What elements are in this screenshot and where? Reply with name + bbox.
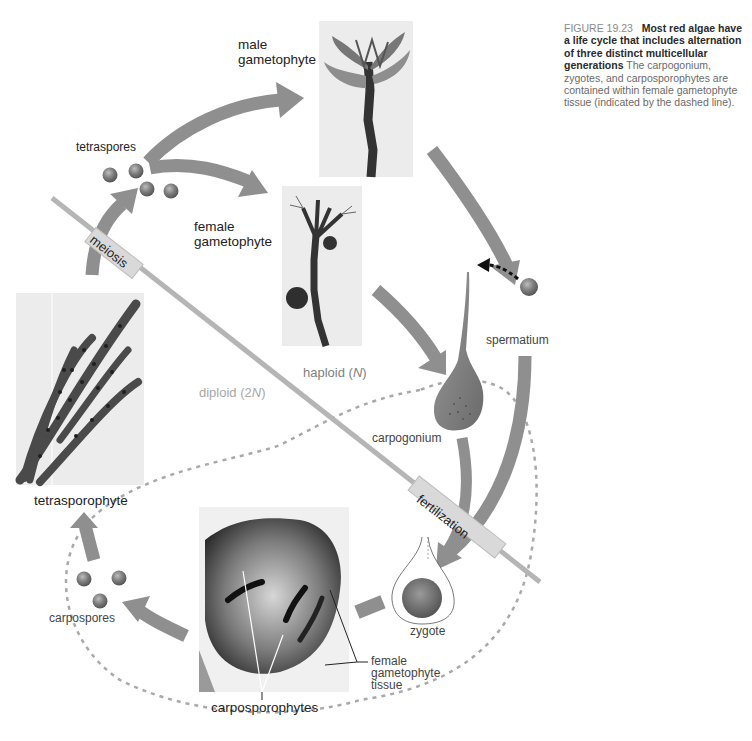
red-algae-life-cycle-diagram: male gametophyte female gametophyte tetr… <box>0 0 752 741</box>
spermatium-label: spermatium <box>486 334 549 347</box>
female-gametophyte-label: female gametophyte <box>194 219 272 249</box>
spermatium-icon <box>520 278 538 296</box>
male-gametophyte-label: male gametophyte <box>238 37 316 67</box>
carposporophytes-photo <box>199 507 349 692</box>
tetrasporophyte-photo <box>16 293 144 485</box>
arrow-zygote-to-carposporophytes <box>354 595 385 618</box>
diagram-graphics <box>0 0 752 741</box>
carpospores-icon <box>77 571 127 609</box>
figure-number: FIGURE 19.23 <box>564 22 633 34</box>
carposporophytes-label: carposporophytes <box>211 700 318 715</box>
carpogonium-label: carpogonium <box>372 432 441 445</box>
zygote-label: zygote <box>410 625 445 638</box>
arrow-to-carpogonium <box>376 290 437 360</box>
arrow-to-female-gametophyte <box>150 165 250 182</box>
arrow-to-male-gametophyte <box>148 100 280 162</box>
female-gametophyte-photo <box>282 186 362 346</box>
arrow-to-spermatium <box>432 150 508 268</box>
haploid-label: haploid (N) <box>303 366 367 379</box>
figure-caption: FIGURE 19.23 Most red algae have a life … <box>564 22 750 109</box>
diploid-label: diploid (2N) <box>199 386 266 399</box>
female-gametophyte-tissue-label: female gametophyte tissue <box>371 655 440 691</box>
male-gametophyte-photo <box>319 21 413 177</box>
carpogonium-icon <box>434 272 483 430</box>
carpospores-label: carpospores <box>49 612 115 625</box>
tetraspores-label: tetraspores <box>76 141 136 154</box>
tetrasporophyte-label: tetrasporophyte <box>34 493 128 508</box>
arrow-to-carpospores <box>136 608 186 636</box>
